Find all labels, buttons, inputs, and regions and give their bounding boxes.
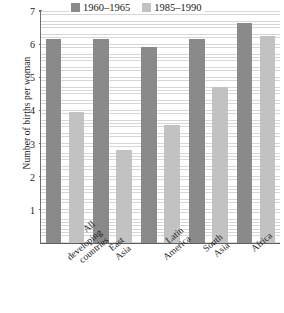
legend-label: 1960–1965 <box>83 2 130 13</box>
legend-swatch-icon <box>71 3 80 12</box>
bars-layer <box>41 11 280 243</box>
bar <box>46 39 62 243</box>
bar <box>189 39 205 243</box>
fertility-bar-chart: Number of births per woman 1234567 1960–… <box>0 0 284 313</box>
legend-entry: 1960–1965 <box>71 2 130 13</box>
bar <box>69 112 85 243</box>
bar <box>212 87 228 243</box>
bar <box>237 23 253 243</box>
y-tick-label: 1 <box>15 204 35 215</box>
y-tick-label: 6 <box>15 39 35 50</box>
bar <box>141 47 157 243</box>
bar <box>260 36 276 243</box>
y-tick-label: 2 <box>15 171 35 182</box>
y-tick-label: 3 <box>15 138 35 149</box>
legend-label: 1985–1990 <box>154 2 201 13</box>
plot-area <box>40 11 280 244</box>
chart-legend: 1960–19651985–1990 <box>69 2 205 13</box>
y-tick-label: 7 <box>15 6 35 17</box>
legend-swatch-icon <box>142 3 151 12</box>
y-tick-label: 5 <box>15 72 35 83</box>
x-axis-labels: AlldevelopingcountriesEastAsiaLatinAmeri… <box>40 246 279 313</box>
bar <box>116 150 132 243</box>
legend-entry: 1985–1990 <box>142 2 201 13</box>
bar <box>93 39 109 243</box>
y-tick-label: 4 <box>15 105 35 116</box>
